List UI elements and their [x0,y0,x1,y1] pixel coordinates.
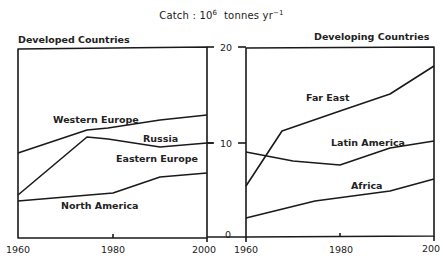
series-far-east [246,66,434,186]
label-africa: Africa [351,180,382,191]
label-eastern-europe: Eastern Europe [116,153,198,164]
label-north-america: North America [61,200,138,211]
y-label-10: 10 [220,138,232,149]
x-label-1980-left: 1980 [101,244,125,255]
y-label-20: 20 [220,42,232,53]
label-far-east: Far East [306,92,350,103]
x-label-2000-right: 200 [422,243,440,254]
label-western-europe: Western Europe [53,114,139,125]
series-russia-eastern-europe [18,137,213,195]
label-latin-america: Latin America [331,137,405,148]
x-label-1960-right: 1960 [234,244,258,255]
x-label-2000-left: 2000 [192,244,216,255]
x-label-1960-left: 1960 [6,244,30,255]
y-label-0: 0 [225,229,231,240]
chart-canvas: 20 10 0 1960 1980 2000 1960 1980 200 Wes… [0,0,443,270]
label-russia: Russia [143,133,178,144]
x-label-1980-right: 1980 [329,244,353,255]
series-north-america [18,173,207,201]
series-africa [246,179,434,218]
